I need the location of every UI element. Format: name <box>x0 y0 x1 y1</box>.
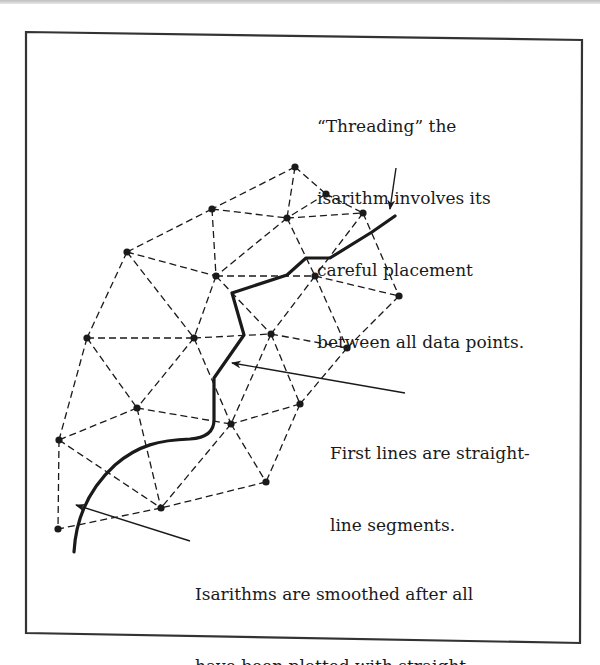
network-edge <box>137 338 194 408</box>
network-edge <box>231 404 300 424</box>
network-edge <box>231 424 266 482</box>
data-point <box>296 400 303 407</box>
smoothed-line-2: have been plotted with straight- <box>195 654 473 665</box>
data-point <box>157 504 164 511</box>
network-edge <box>271 276 315 334</box>
first-lines-line-1: First lines are straight- <box>330 441 530 465</box>
network-edge <box>127 252 216 276</box>
network-edge <box>194 334 271 338</box>
network-edge <box>194 276 216 338</box>
data-point <box>208 205 215 212</box>
data-point <box>212 272 219 279</box>
network-edge <box>271 334 300 404</box>
data-point <box>190 334 197 341</box>
data-point <box>262 478 269 485</box>
network-edge <box>137 408 231 424</box>
network-edge <box>127 252 194 338</box>
data-point <box>267 330 274 337</box>
network-edge <box>87 252 127 338</box>
network-edge <box>161 424 231 508</box>
threading-annotation: “Threading” the isarithm involves its ca… <box>317 66 524 378</box>
network-edge <box>87 338 137 408</box>
network-edge <box>59 408 137 440</box>
network-edge <box>216 218 287 276</box>
network-edge <box>216 276 271 334</box>
network-edge <box>59 338 87 440</box>
network-edge <box>59 440 161 508</box>
data-point <box>291 163 298 170</box>
data-point <box>283 214 290 221</box>
data-point <box>227 420 234 427</box>
network-edge <box>212 167 295 209</box>
threading-line-3: careful placement <box>317 258 524 282</box>
network-edge <box>58 508 161 529</box>
network-edge <box>127 209 212 252</box>
network-edge <box>212 209 216 276</box>
network-edge <box>58 440 59 529</box>
data-point <box>83 334 90 341</box>
network-edge <box>266 404 300 482</box>
data-point <box>123 248 130 255</box>
threading-line-1: “Threading” the <box>317 114 524 138</box>
data-point <box>54 525 61 532</box>
network-edge <box>287 167 295 218</box>
data-point <box>55 436 62 443</box>
network-edge <box>212 209 287 218</box>
data-point <box>133 404 140 411</box>
threading-line-2: isarithm involves its <box>317 186 524 210</box>
network-edge <box>161 482 266 508</box>
smoothed-annotation: Isarithms are smoothed after all have be… <box>195 534 473 665</box>
network-edge <box>287 218 315 276</box>
smoothed-arrow <box>76 505 190 541</box>
smoothed-line-1: Isarithms are smoothed after all <box>195 582 473 606</box>
network-edge <box>137 408 161 508</box>
threading-line-4: between all data points. <box>317 330 524 354</box>
